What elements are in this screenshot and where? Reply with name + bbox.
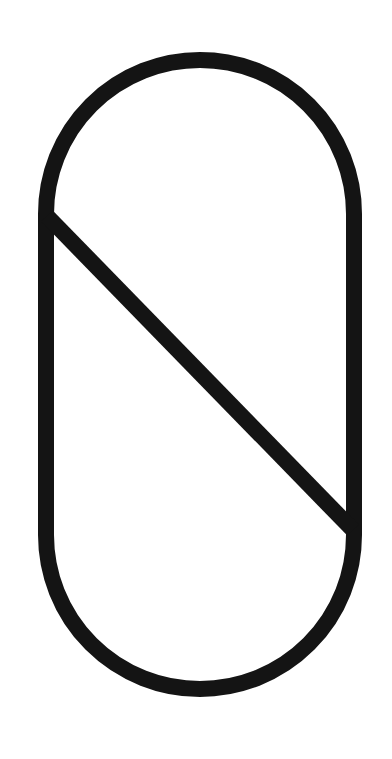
diagonal-line xyxy=(47,216,353,530)
stadium-symbol xyxy=(0,0,392,759)
